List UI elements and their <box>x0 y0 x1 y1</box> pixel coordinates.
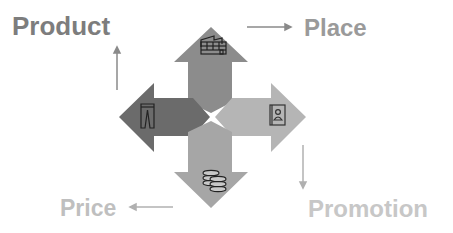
label-product: Product <box>12 13 110 39</box>
connector-price-left <box>130 204 173 210</box>
connector-place-right <box>247 24 291 30</box>
label-price: Price <box>60 197 116 220</box>
connector-promotion-down <box>300 145 306 188</box>
label-promotion: Promotion <box>308 197 428 221</box>
connector-product-up <box>114 47 120 90</box>
label-place: Place <box>304 16 367 40</box>
